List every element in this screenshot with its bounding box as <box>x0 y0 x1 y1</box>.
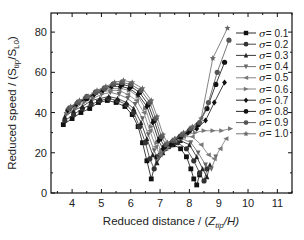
triangle-left-marker-icon <box>223 136 228 141</box>
triangle-right-marker-icon <box>193 130 198 135</box>
diamond-legend-icon <box>244 97 248 103</box>
triangle-right-marker-icon <box>228 126 233 131</box>
legend-label: σ= 0.6 <box>259 84 289 95</box>
series-sigma-0.2 <box>62 96 209 184</box>
square-marker-icon <box>184 154 189 159</box>
y-tick-label: 0 <box>41 187 47 199</box>
y-tick-label: 80 <box>35 26 47 38</box>
triangle-left-marker-icon <box>141 110 146 115</box>
y-tick-label: 60 <box>35 66 47 78</box>
legend-item: σ= 0.7 <box>236 95 289 106</box>
circle-marker-icon <box>152 166 157 171</box>
square-marker-icon <box>194 183 199 188</box>
legend-label: σ= 1.0 <box>259 128 289 139</box>
x-tick-label: 9 <box>216 197 222 209</box>
legend-item: σ= 0.9 <box>236 117 289 128</box>
legend-label: σ= 0.9 <box>259 117 289 128</box>
x-tick-label: 7 <box>157 197 163 209</box>
triangle-left-legend-icon <box>243 76 248 80</box>
legend-item: σ= 0.4 <box>236 61 289 72</box>
circle-legend-icon <box>244 120 249 125</box>
circle-legend-icon <box>244 109 249 114</box>
triangle-left-marker-icon <box>190 134 195 139</box>
series-layer <box>61 25 233 187</box>
y-axis-title: Reduced speed / (Stip/SL0) <box>6 36 21 170</box>
legend-label: σ= 0.5 <box>259 72 289 83</box>
legend-item: σ= 0.6 <box>236 84 289 95</box>
legend-label: σ= 0.4 <box>259 61 289 72</box>
diamond-marker-icon <box>212 99 217 105</box>
x-tick-label: 11 <box>272 197 283 209</box>
legend-item: σ= 0.3 <box>236 50 289 61</box>
circle-marker-icon <box>222 60 227 65</box>
square-marker-icon <box>191 177 196 182</box>
legend-label: σ= 0.3 <box>259 50 289 61</box>
x-tick-label: 6 <box>128 197 134 209</box>
square-marker-icon <box>149 177 154 182</box>
triangle-left-marker-icon <box>206 152 211 157</box>
x-axis-title: Reduced distance / (Ztip/H) <box>103 215 239 230</box>
triangle-right-marker-icon <box>210 128 215 133</box>
triangle-right-marker-icon <box>202 128 207 133</box>
square-marker-icon <box>188 166 193 171</box>
y-tick-label: 20 <box>35 147 47 159</box>
legend: σ= 0.1σ= 0.2σ= 0.3σ= 0.4σ= 0.5σ= 0.6σ= 0… <box>236 28 289 140</box>
legend-label: σ= 0.8 <box>259 106 289 117</box>
legend-item: σ= 0.5 <box>236 72 289 83</box>
chart: 4567891011020406080 σ= 0.1σ= 0.2σ= 0.3σ=… <box>0 0 304 240</box>
circle-marker-icon <box>215 70 220 75</box>
diamond-marker-icon <box>203 118 208 124</box>
legend-item: σ= 0.1 <box>236 28 289 39</box>
circle-marker-icon <box>226 38 231 43</box>
x-tick-label: 10 <box>242 197 254 209</box>
triangle-left-marker-icon <box>217 146 222 151</box>
diamond-marker-icon <box>222 79 227 85</box>
star-legend-icon <box>243 131 249 136</box>
star-marker-icon <box>224 25 230 31</box>
legend-item: σ= 1.0 <box>236 128 289 139</box>
x-tick-label: 8 <box>186 197 192 209</box>
triangle-right-marker-icon <box>219 128 224 133</box>
legend-label: σ= 0.1 <box>259 28 289 39</box>
circle-legend-icon <box>244 42 249 47</box>
legend-label: σ= 0.7 <box>259 95 289 106</box>
circle-marker-icon <box>206 100 211 105</box>
square-marker-icon <box>178 146 183 151</box>
x-tick-label: 5 <box>98 197 104 209</box>
legend-item: σ= 0.8 <box>236 106 289 117</box>
triangle-down-marker-icon <box>209 166 214 171</box>
triangle-right-legend-icon <box>244 87 249 91</box>
square-legend-icon <box>244 31 248 35</box>
triangle-up-marker-icon <box>200 166 205 171</box>
legend-label: σ= 0.2 <box>259 39 289 50</box>
x-tick-label: 4 <box>69 197 75 209</box>
legend-item: σ= 0.2 <box>236 39 289 50</box>
y-tick-label: 40 <box>35 107 47 119</box>
